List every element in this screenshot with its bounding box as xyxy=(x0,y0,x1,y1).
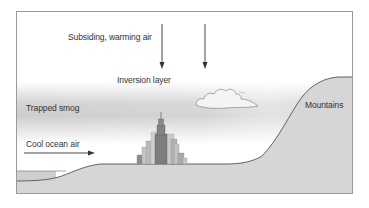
label-inversion-layer: Inversion layer xyxy=(117,76,171,85)
label-mountains: Mountains xyxy=(305,101,343,110)
label-trapped-smog: Trapped smog xyxy=(26,104,79,113)
label-subsiding-air: Subsiding, warming air xyxy=(68,33,152,42)
ocean-layer xyxy=(16,171,56,181)
label-cool-ocean-air: Cool ocean air xyxy=(26,140,79,149)
temperature-inversion-diagram: Subsiding, warming air Inversion layer T… xyxy=(0,0,369,208)
